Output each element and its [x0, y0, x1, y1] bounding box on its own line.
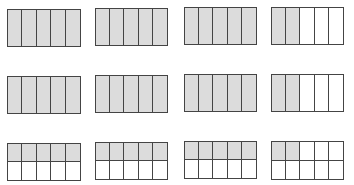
- unshaded-cell: [329, 161, 343, 180]
- shaded-cell: [228, 75, 242, 111]
- shaded-cell: [51, 144, 65, 162]
- shaded-cell: [153, 143, 167, 161]
- unshaded-cell: [315, 161, 329, 180]
- shaded-cell: [110, 143, 124, 161]
- shaded-cell: [185, 8, 199, 44]
- fraction-model-r2c3: [184, 74, 257, 112]
- shaded-cell: [22, 144, 36, 162]
- shaded-cell: [153, 9, 167, 45]
- unshaded-cell: [315, 142, 329, 161]
- shaded-cell: [66, 10, 80, 46]
- unshaded-cell: [96, 161, 110, 179]
- shaded-cell: [286, 75, 300, 111]
- fraction-model-r1c3: [184, 7, 257, 45]
- shaded-cell: [96, 76, 110, 112]
- unshaded-cell: [300, 161, 314, 180]
- shaded-cell: [66, 144, 80, 162]
- shaded-cell: [242, 142, 256, 160]
- shaded-cell: [213, 75, 227, 111]
- unshaded-cell: [329, 142, 343, 161]
- shaded-cell: [139, 143, 153, 161]
- shaded-cell: [66, 77, 80, 113]
- shaded-cell: [110, 76, 124, 112]
- fraction-model-r2c2: [95, 75, 168, 113]
- shaded-cell: [199, 8, 213, 44]
- unshaded-cell: [153, 161, 167, 179]
- shaded-cell: [51, 77, 65, 113]
- unshaded-cell: [286, 161, 300, 180]
- shaded-cell: [124, 9, 138, 45]
- fraction-model-r3c1: [7, 143, 81, 181]
- shaded-cell: [286, 8, 300, 44]
- shaded-cell: [37, 144, 51, 162]
- fraction-model-r1c2: [95, 8, 168, 46]
- unshaded-cell: [37, 162, 51, 180]
- shaded-cell: [213, 8, 227, 44]
- unshaded-cell: [8, 162, 22, 180]
- shaded-cell: [110, 9, 124, 45]
- shaded-cell: [124, 76, 138, 112]
- unshaded-cell: [213, 160, 227, 178]
- unshaded-cell: [272, 161, 286, 180]
- shaded-cell: [242, 75, 256, 111]
- unshaded-cell: [300, 142, 314, 161]
- shaded-cell: [139, 9, 153, 45]
- unshaded-cell: [315, 75, 329, 111]
- shaded-cell: [124, 143, 138, 161]
- unshaded-cell: [185, 160, 199, 178]
- shaded-cell: [272, 75, 286, 111]
- shaded-cell: [185, 75, 199, 111]
- shaded-cell: [228, 8, 242, 44]
- unshaded-cell: [139, 161, 153, 179]
- shaded-cell: [153, 76, 167, 112]
- unshaded-cell: [199, 160, 213, 178]
- shaded-cell: [213, 142, 227, 160]
- shaded-cell: [228, 142, 242, 160]
- shaded-cell: [199, 75, 213, 111]
- unshaded-cell: [300, 75, 314, 111]
- unshaded-cell: [22, 162, 36, 180]
- shaded-cell: [22, 77, 36, 113]
- unshaded-cell: [51, 162, 65, 180]
- unshaded-cell: [329, 75, 343, 111]
- unshaded-cell: [124, 161, 138, 179]
- shaded-cell: [272, 142, 286, 161]
- shaded-cell: [51, 10, 65, 46]
- shaded-cell: [8, 10, 22, 46]
- unshaded-cell: [300, 8, 314, 44]
- shaded-cell: [185, 142, 199, 160]
- shaded-cell: [139, 76, 153, 112]
- shaded-cell: [286, 142, 300, 161]
- fraction-model-r2c4: [271, 74, 344, 112]
- unshaded-cell: [228, 160, 242, 178]
- shaded-cell: [8, 77, 22, 113]
- fraction-model-r3c4: [271, 141, 344, 180]
- unshaded-cell: [110, 161, 124, 179]
- shaded-cell: [96, 143, 110, 161]
- shaded-cell: [8, 144, 22, 162]
- shaded-cell: [37, 77, 51, 113]
- unshaded-cell: [315, 8, 329, 44]
- shaded-cell: [37, 10, 51, 46]
- fraction-model-r3c3: [184, 141, 257, 179]
- fraction-model-r1c1: [7, 9, 81, 47]
- fraction-model-r2c1: [7, 76, 81, 114]
- unshaded-cell: [66, 162, 80, 180]
- shaded-cell: [22, 10, 36, 46]
- shaded-cell: [272, 8, 286, 44]
- shaded-cell: [242, 8, 256, 44]
- shaded-cell: [199, 142, 213, 160]
- unshaded-cell: [329, 8, 343, 44]
- unshaded-cell: [242, 160, 256, 178]
- fraction-model-r1c4: [271, 7, 344, 45]
- fraction-model-r3c2: [95, 142, 168, 180]
- shaded-cell: [96, 9, 110, 45]
